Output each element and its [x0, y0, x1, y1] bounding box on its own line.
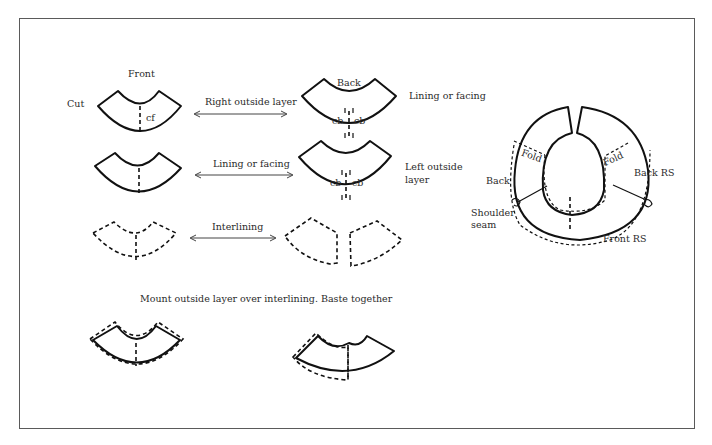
label-lining-or-facing-right: Lining or facing [409, 91, 486, 102]
label-left-outside: Left outside [405, 162, 463, 173]
label-cb-right-1: cb [354, 116, 365, 127]
assembled-collar [511, 107, 652, 245]
label-cf: cf [146, 113, 155, 124]
label-back-assembled: Back [486, 176, 510, 187]
label-front-rs: Front RS [603, 234, 646, 245]
collar-pattern-diagram [0, 0, 712, 445]
label-front: Front [128, 69, 155, 80]
label-layer: layer [405, 175, 429, 186]
label-seam: seam [471, 220, 496, 231]
arrow-right-outside-layer [194, 111, 287, 117]
front-collar-cut [98, 91, 181, 132]
label-back: Back [337, 78, 361, 89]
back-collar-interlining-right [350, 221, 402, 266]
label-cb-left-2: cb [330, 178, 341, 189]
label-right-outside-layer: Right outside layer [205, 97, 297, 108]
front-collar-lining [95, 153, 181, 196]
label-cb-right-2: cb [352, 178, 363, 189]
back-collar-interlining-left [285, 218, 337, 264]
label-shoulder: Shoulder [471, 208, 515, 219]
arrow-lining-or-facing [195, 172, 293, 178]
label-cut: Cut [67, 99, 84, 110]
back-collar-left-outside [299, 141, 391, 200]
front-collar-mounted [90, 322, 183, 366]
front-collar-interlining [93, 222, 176, 262]
label-lining-or-facing: Lining or facing [213, 159, 290, 170]
label-back-rs: Back RS [634, 168, 674, 179]
arrow-interlining [190, 235, 276, 241]
back-collar-mounted [293, 333, 394, 380]
label-interlining: Interlining [212, 222, 263, 233]
mount-caption: Mount outside layer over interlining. Ba… [140, 294, 392, 305]
label-cb-left-1: cb [332, 116, 343, 127]
